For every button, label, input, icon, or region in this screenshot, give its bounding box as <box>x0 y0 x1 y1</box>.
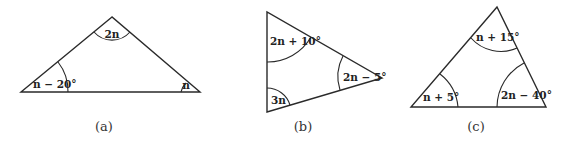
angle-label-c-top: n + 15° <box>476 31 520 43</box>
angle-label-b-bottom-left: 3n <box>271 94 286 106</box>
angle-label-c-bottom-left: n + 5° <box>423 91 459 103</box>
angle-label-c-bottom-right: 2n − 40° <box>501 89 552 101</box>
triangle-a: 2n n − 20° n (a) <box>21 17 200 134</box>
angle-label-a-top: 2n <box>105 28 120 40</box>
caption-a: (a) <box>95 119 113 134</box>
angle-label-a-left: n − 20° <box>33 78 77 90</box>
angle-label-b-top-left: 2n + 10° <box>270 35 321 47</box>
triangles-figure: 2n n − 20° n (a) 2n + 10° 3n 2n − 5° (b)… <box>0 0 568 147</box>
caption-c: (c) <box>467 119 484 134</box>
angle-label-a-right: n <box>182 79 190 91</box>
triangle-b: 2n + 10° 3n 2n − 5° (b) <box>267 12 387 134</box>
triangle-c: n + 15° n + 5° 2n − 40° (c) <box>411 7 552 134</box>
angle-label-b-right: 2n − 5° <box>343 71 387 83</box>
caption-b: (b) <box>294 119 312 134</box>
